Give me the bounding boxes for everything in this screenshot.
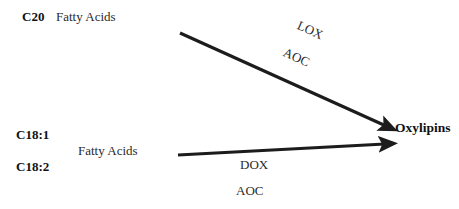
enzyme-label-dox: DOX bbox=[240, 158, 268, 171]
substrate-label-c18-fatty-acids: Fatty Acids bbox=[78, 144, 138, 157]
substrate-label-c18-2: C18:2 bbox=[16, 160, 49, 173]
substrate-label-c20-fatty-acids: Fatty Acids bbox=[56, 10, 116, 23]
arrow-layer bbox=[0, 0, 459, 209]
product-label-oxylipins: Oxylipins bbox=[395, 121, 451, 135]
substrate-label-c18-1: C18:1 bbox=[16, 128, 49, 141]
upper-arrow bbox=[180, 33, 386, 126]
lower-arrow bbox=[178, 144, 385, 155]
enzyme-label-aoc-lower: AOC bbox=[236, 184, 263, 197]
pathway-diagram: C20 Fatty Acids C18:1 C18:2 Fatty Acids … bbox=[0, 0, 459, 209]
substrate-label-c20: C20 bbox=[22, 10, 44, 23]
